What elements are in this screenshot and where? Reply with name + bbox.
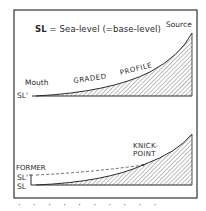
knickpoint-panel <box>29 134 192 185</box>
new-sea-level-label: SL <box>17 183 26 191</box>
former-sea-level-label: SL' <box>17 174 28 182</box>
knickpoint-label-line1: KNICK- <box>133 142 158 150</box>
legend-abbr: SL <box>35 24 47 34</box>
graded-profile-fill <box>36 33 192 96</box>
former-label: FORMER <box>16 165 46 172</box>
sea-level-label-top: SL' <box>17 92 28 100</box>
knickpoint-marker <box>142 164 144 166</box>
knickpoint-label: KNICK- POINT <box>133 142 158 158</box>
river-profile-diagram: SL = Sea-level (=base-level) Source Mout… <box>0 0 206 211</box>
mouth-label: Mouth <box>25 79 49 87</box>
graded-profile-panel <box>32 33 192 96</box>
legend-definition: = Sea-level (=base-level) <box>47 24 161 34</box>
new-profile-fill <box>36 134 192 185</box>
knickpoint-label-line2: POINT <box>133 150 158 158</box>
cropped-caption-fragment: · · · · · · · · · · <box>18 202 161 211</box>
legend-text: SL = Sea-level (=base-level) <box>35 25 161 34</box>
source-label: Source <box>166 21 192 29</box>
